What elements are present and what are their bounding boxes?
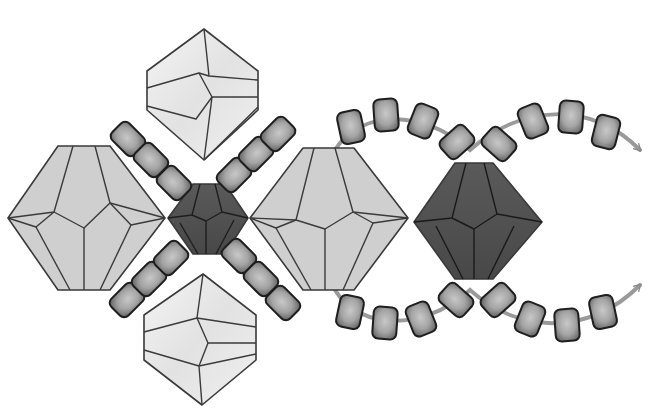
dark-bicone-large-right [414, 163, 542, 279]
seed-bead [436, 280, 476, 319]
seed-bead [437, 122, 477, 161]
seed-bead [516, 102, 550, 141]
seed-bead [478, 280, 518, 319]
seed-bead [479, 124, 519, 163]
seed-bead [554, 308, 580, 342]
seed-bead [335, 294, 365, 330]
pale-bicone-bottom [144, 274, 256, 405]
seed-bead [588, 294, 618, 330]
pale-bicone-top [147, 29, 258, 160]
seed-bead [513, 300, 547, 339]
seed-beads-top-arc [336, 98, 622, 163]
seed-bead [558, 100, 584, 134]
seed-bead [372, 306, 398, 340]
seed-bead [404, 300, 438, 339]
seed-beads-bottom-arc [335, 280, 618, 341]
seed-bead [373, 98, 399, 132]
seed-bead [336, 109, 366, 145]
large-bicone-middle [250, 148, 408, 290]
seed-bead [406, 102, 440, 141]
beading-diagram: Beading pattern diagram: bicone crystals… [0, 0, 665, 419]
diagram-canvas [0, 0, 665, 419]
